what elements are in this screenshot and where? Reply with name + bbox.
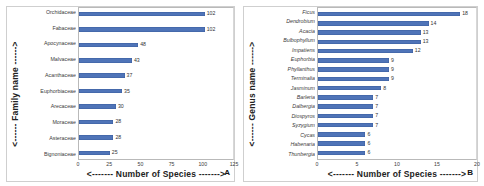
bar-row: 6 xyxy=(318,141,476,147)
bar-row: 30 xyxy=(79,104,233,110)
x-axis-tick-label: 100 xyxy=(198,161,207,167)
bar-value-label: 43 xyxy=(134,58,140,63)
bar-value-label: 102 xyxy=(207,27,216,32)
bar xyxy=(318,114,373,119)
bar-value-label: 30 xyxy=(118,104,124,109)
bar xyxy=(318,86,381,91)
panel-a-plot-row: OrchidaceaeFabaceaeApocynaceaeMalvaceaeA… xyxy=(22,7,234,160)
panel-b: <------ Genus name ------> FicusDendrobi… xyxy=(239,0,484,186)
bar-value-label: 18 xyxy=(462,11,468,16)
category-label: Moraceae xyxy=(22,120,76,125)
bar-value-label: 9 xyxy=(391,76,394,81)
bar xyxy=(79,104,116,109)
bar-value-label: 35 xyxy=(124,89,130,94)
bar-value-label: 25 xyxy=(112,150,118,155)
panel-b-plot-row: FicusDendrobiumAcaciaBulbophyllumImpatie… xyxy=(259,7,477,160)
panel-b-plot-column: FicusDendrobiumAcaciaBulbophyllumImpatie… xyxy=(259,7,477,181)
bar-row: 9 xyxy=(318,57,476,63)
panel-b-frame: <------ Genus name ------> FicusDendrobi… xyxy=(243,6,478,182)
bar xyxy=(318,132,365,137)
panel-a-x-axis: 0255075100125 <------- Number of Species… xyxy=(22,160,234,181)
bar xyxy=(79,12,205,17)
category-label: Syzygium xyxy=(259,123,315,128)
panel-b-x-axis-ticks: 05101520 xyxy=(317,160,477,169)
bar xyxy=(79,27,205,32)
panel-a-x-axis-ticks: 0255075100125 xyxy=(78,160,234,169)
panel-a: <------ Family name ------> OrchidaceaeF… xyxy=(0,0,239,186)
bar xyxy=(318,151,365,156)
category-label: Jasminum xyxy=(259,86,315,91)
bar-value-label: 28 xyxy=(115,119,121,124)
bar-value-label: 37 xyxy=(127,73,133,78)
bar-row: 28 xyxy=(79,135,233,141)
panel-a-category-labels: OrchidaceaeFabaceaeApocynaceaeMalvaceaeA… xyxy=(22,7,78,160)
bar-row: 102 xyxy=(79,11,233,17)
bar-row: 6 xyxy=(318,131,476,137)
bar xyxy=(318,12,460,17)
x-axis-tick-label: 50 xyxy=(138,161,144,167)
category-label: Euphorbia xyxy=(259,57,315,62)
bar xyxy=(318,123,373,128)
bar-value-label: 6 xyxy=(367,132,370,137)
panel-a-letter: A xyxy=(224,168,230,177)
panel-b-letter: B xyxy=(467,168,473,177)
x-axis-tick-label: 75 xyxy=(169,161,175,167)
bar xyxy=(79,58,132,63)
bar-row: 9 xyxy=(318,76,476,82)
category-label: Thunbergia xyxy=(259,152,315,157)
category-label: Acacia xyxy=(259,29,315,34)
bar xyxy=(79,43,138,48)
category-label: Euphorbiaceae xyxy=(22,89,76,94)
bar-row: 18 xyxy=(318,11,476,17)
bar-value-label: 13 xyxy=(423,30,429,35)
bar xyxy=(318,141,365,146)
category-label: Ficus xyxy=(259,10,315,15)
bar xyxy=(318,58,389,63)
bar-value-label: 6 xyxy=(367,141,370,146)
category-label: Fabaceae xyxy=(22,26,76,31)
category-label: Arecaceae xyxy=(22,104,76,109)
bar-row: 7 xyxy=(318,94,476,100)
bar-value-label: 28 xyxy=(115,135,121,140)
bar xyxy=(318,30,421,35)
panel-a-y-axis-title-text: <------ Family name ------> xyxy=(10,41,20,147)
bar-value-label: 9 xyxy=(391,67,394,72)
bar-row: 7 xyxy=(318,122,476,128)
category-label: Acanthaceae xyxy=(22,73,76,78)
category-label: Malvaceae xyxy=(22,57,76,62)
panel-a-plot-area: 1021024843373530282825 xyxy=(78,7,234,160)
category-label: Barleria xyxy=(259,95,315,100)
bar-row: 35 xyxy=(79,88,233,94)
bar xyxy=(79,120,113,125)
x-axis-tick-label: 10 xyxy=(394,161,400,167)
bar-value-label: 7 xyxy=(375,104,378,109)
bar xyxy=(318,40,421,45)
category-label: Phyllanthus xyxy=(259,67,315,72)
bar-value-label: 13 xyxy=(423,39,429,44)
category-label: Bulbophyllum xyxy=(259,38,315,43)
bar-value-label: 6 xyxy=(367,150,370,155)
panel-b-plot-area: 181413131299987777666 xyxy=(317,7,477,160)
panel-a-x-axis-title: <------- Number of Species -------> xyxy=(78,169,234,181)
x-axis-tick-label: 125 xyxy=(230,161,239,167)
x-axis-tick-label: 25 xyxy=(106,161,112,167)
bar xyxy=(318,95,373,100)
bar-row: 48 xyxy=(79,42,233,48)
bar-value-label: 14 xyxy=(431,21,437,26)
bar-value-label: 9 xyxy=(391,58,394,63)
panel-b-y-axis-title-text: <------ Genus name ------> xyxy=(247,42,257,147)
bar xyxy=(318,67,389,72)
bar-row: 13 xyxy=(318,30,476,36)
panel-b-x-axis-title: <------- Number of Species -------> xyxy=(317,169,477,181)
bar-value-label: 8 xyxy=(383,86,386,91)
panel-a-y-axis-title: <------ Family name ------> xyxy=(7,7,22,181)
bar-row: 13 xyxy=(318,39,476,45)
bar xyxy=(79,89,122,94)
category-label: Orchidaceae xyxy=(22,10,76,15)
category-label: Habenaria xyxy=(259,142,315,147)
panel-b-x-axis: 05101520 <------- Number of Species ----… xyxy=(259,160,477,181)
bar-row: 8 xyxy=(318,85,476,91)
bar xyxy=(318,21,429,26)
bar-value-label: 102 xyxy=(207,11,216,16)
bar xyxy=(318,104,373,109)
